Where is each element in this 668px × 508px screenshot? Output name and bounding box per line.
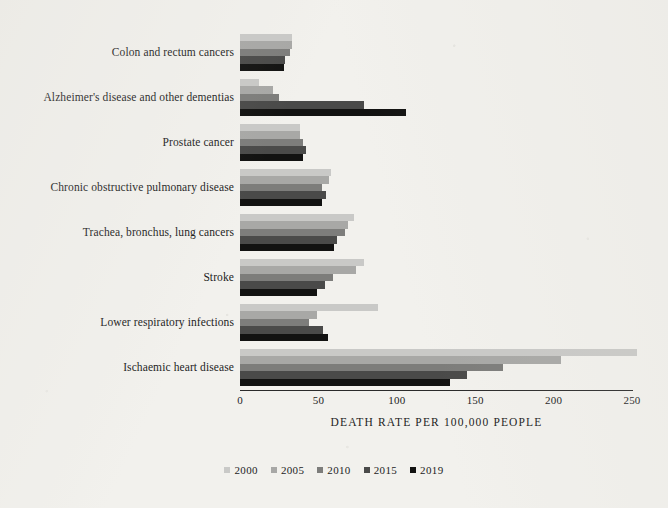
bar-group [240, 259, 632, 296]
category-label: Chronic obstructive pulmonary disease [10, 181, 234, 194]
bar [240, 349, 637, 356]
legend-swatch-icon [410, 467, 416, 473]
legend-swatch-icon [271, 467, 277, 473]
x-tick-label: 250 [623, 394, 640, 406]
bar [240, 56, 285, 63]
bar [240, 236, 337, 243]
bar [240, 64, 284, 71]
bar [240, 169, 331, 176]
bar-group [240, 124, 632, 161]
bar [240, 244, 334, 251]
bar [240, 101, 364, 108]
x-tick-label: 0 [237, 394, 243, 406]
category-label: Ischaemic heart disease [10, 361, 234, 374]
bar [240, 94, 279, 101]
legend-label: 2010 [327, 464, 350, 476]
bar-group [240, 169, 632, 206]
bar [240, 311, 317, 318]
bar [240, 371, 467, 378]
x-tick-label: 50 [313, 394, 324, 406]
bar [240, 364, 503, 371]
category-label: Alzheimer's disease and other dementias [10, 91, 234, 104]
bar [240, 49, 290, 56]
bar-group [240, 349, 632, 386]
bar [240, 281, 325, 288]
bar [240, 214, 354, 221]
legend-item[interactable]: 2019 [410, 464, 443, 476]
chart-legend: 20002005201020152019 [0, 464, 668, 476]
legend-item[interactable]: 2015 [364, 464, 397, 476]
bar [240, 379, 450, 386]
bar [240, 86, 273, 93]
x-tick-label: 150 [467, 394, 484, 406]
category-label: Prostate cancer [10, 136, 234, 149]
legend-swatch-icon [317, 467, 323, 473]
bar [240, 274, 333, 281]
x-axis-line [240, 390, 633, 391]
plot-area [240, 30, 632, 390]
bar [240, 131, 300, 138]
bar [240, 259, 364, 266]
bar-group [240, 214, 632, 251]
bar [240, 146, 306, 153]
legend-swatch-icon [364, 467, 370, 473]
category-label: Stroke [10, 271, 234, 284]
legend-item[interactable]: 2000 [224, 464, 257, 476]
category-label: Trachea, bronchus, lung cancers [10, 226, 234, 239]
x-tick-label: 100 [388, 394, 405, 406]
bar [240, 266, 356, 273]
bar [240, 199, 322, 206]
bar [240, 176, 329, 183]
legend-label: 2000 [234, 464, 257, 476]
bar [240, 319, 309, 326]
bar [240, 109, 406, 116]
legend-item[interactable]: 2010 [317, 464, 350, 476]
bar [240, 34, 292, 41]
bar [240, 139, 303, 146]
bar [240, 289, 317, 296]
bar [240, 79, 259, 86]
bar [240, 326, 323, 333]
bar [240, 229, 345, 236]
category-label: Lower respiratory infections [10, 316, 234, 329]
legend-label: 2005 [281, 464, 304, 476]
bar [240, 124, 300, 131]
bar [240, 304, 378, 311]
category-axis-labels: Colon and rectum cancersAlzheimer's dise… [10, 30, 234, 390]
legend-swatch-icon [224, 467, 230, 473]
category-label: Colon and rectum cancers [10, 46, 234, 59]
bar [240, 184, 322, 191]
x-tick-label: 200 [545, 394, 562, 406]
grouped-bar-chart: Colon and rectum cancersAlzheimer's dise… [0, 0, 668, 508]
bar [240, 356, 561, 363]
bar [240, 221, 348, 228]
bar [240, 154, 303, 161]
bar-group [240, 304, 632, 341]
x-axis-title: DEATH RATE PER 100,000 PEOPLE [240, 416, 633, 428]
bar [240, 41, 292, 48]
legend-label: 2019 [420, 464, 443, 476]
bar [240, 334, 328, 341]
bar-group [240, 79, 632, 116]
legend-label: 2015 [374, 464, 397, 476]
legend-item[interactable]: 2005 [271, 464, 304, 476]
bar [240, 191, 326, 198]
bar-group [240, 34, 632, 71]
